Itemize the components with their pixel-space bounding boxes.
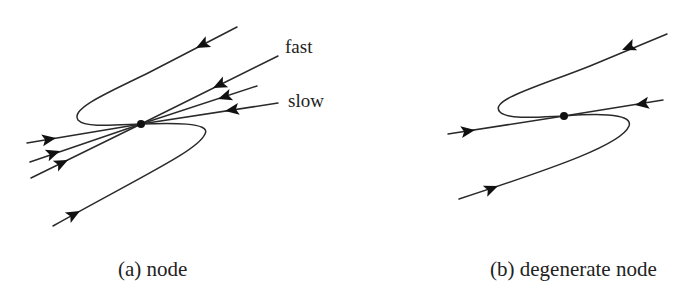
phase-portrait-figure: fast slow (a) node (b) degenerate node — [0, 0, 697, 296]
slow-label: slow — [288, 90, 324, 111]
eigendirection-line — [448, 100, 663, 134]
caption-a: (a) node — [118, 257, 187, 281]
arrow-icon — [216, 89, 233, 105]
arrow-icon — [483, 180, 500, 196]
trajectory-bottom-curve — [53, 123, 206, 226]
fixed-point-dot — [137, 120, 145, 128]
arrow-icon — [45, 145, 62, 161]
trajectory-top-curve — [77, 27, 237, 125]
arrow-icon — [193, 36, 211, 53]
arrow-icon — [65, 206, 83, 223]
panel-b-degenerate-node: (b) degenerate node — [448, 34, 667, 281]
panel-a-node: fast slow (a) node — [27, 27, 324, 281]
caption-b: (b) degenerate node — [490, 257, 657, 281]
fast-eigendirection-line — [31, 56, 278, 178]
fixed-point-dot — [560, 112, 568, 120]
arrow-icon — [210, 76, 228, 93]
arrow-icon — [53, 155, 71, 172]
fast-label: fast — [285, 36, 313, 57]
